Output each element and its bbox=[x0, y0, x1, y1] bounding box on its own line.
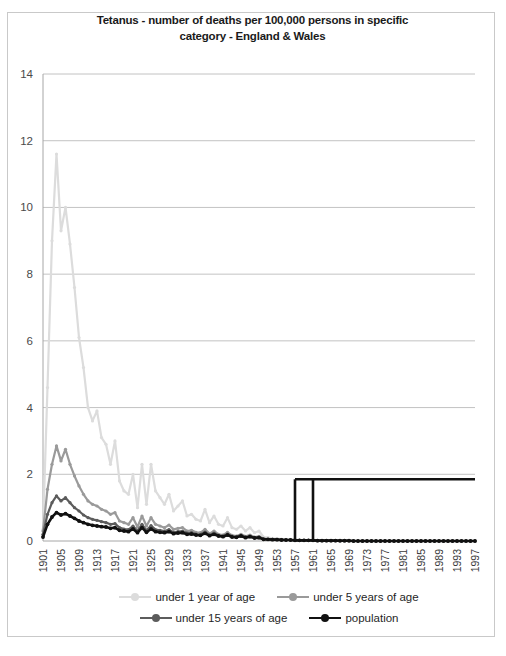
series-point bbox=[140, 523, 143, 526]
series-point bbox=[284, 538, 288, 542]
series-point bbox=[100, 436, 103, 439]
x-axis-tick-label: 1925 bbox=[145, 549, 157, 573]
series-point bbox=[419, 539, 423, 543]
series-point bbox=[77, 336, 80, 339]
x-axis-tick-label: 1981 bbox=[397, 549, 409, 573]
series-point bbox=[73, 286, 76, 289]
series-point bbox=[338, 539, 342, 543]
legend-swatch-under-1-year bbox=[119, 591, 151, 603]
series-point bbox=[59, 513, 63, 517]
series-point bbox=[127, 523, 130, 526]
series-point bbox=[82, 521, 86, 525]
legend-item-under-15-years[interactable]: under 15 years of age bbox=[140, 612, 288, 624]
series-point bbox=[203, 508, 206, 511]
series-point bbox=[91, 523, 95, 527]
y-axis-tick-label: 6 bbox=[27, 335, 33, 347]
series-point bbox=[104, 521, 107, 524]
series-point bbox=[266, 537, 270, 541]
series-point bbox=[424, 539, 428, 543]
series-point bbox=[149, 524, 152, 527]
x-axis-tick-label: 1957 bbox=[289, 549, 301, 573]
series-point bbox=[59, 499, 62, 502]
series-point bbox=[127, 530, 131, 534]
series-point bbox=[95, 519, 98, 522]
series-point bbox=[194, 533, 198, 537]
series-point bbox=[50, 515, 54, 519]
series-point bbox=[82, 493, 85, 496]
plot-area: 0246810121419011905190919131917192119251… bbox=[0, 0, 506, 656]
series-point bbox=[460, 539, 464, 543]
x-axis-tick-label: 1917 bbox=[109, 549, 121, 573]
series-point bbox=[226, 533, 230, 537]
series-point bbox=[104, 443, 107, 446]
series-point bbox=[136, 506, 139, 509]
series-point bbox=[320, 539, 324, 543]
series-point bbox=[154, 530, 158, 534]
chart-legend: under 1 year of age under 5 years of age… bbox=[104, 586, 434, 628]
series-point bbox=[149, 527, 153, 531]
series-point bbox=[131, 473, 134, 476]
series-point bbox=[59, 229, 62, 232]
series-point bbox=[397, 539, 401, 543]
series-point bbox=[77, 509, 80, 512]
series-point bbox=[392, 539, 396, 543]
series-point bbox=[55, 494, 58, 497]
x-axis-tick-label: 1997 bbox=[469, 549, 481, 573]
series-point bbox=[140, 463, 143, 466]
series-point bbox=[383, 539, 387, 543]
series-point bbox=[361, 539, 365, 543]
series-point bbox=[203, 531, 207, 535]
series-point bbox=[91, 518, 94, 521]
series-point bbox=[68, 463, 71, 466]
legend-swatch-under-5-years bbox=[277, 591, 309, 603]
legend-label-under-1-year: under 1 year of age bbox=[155, 591, 255, 603]
series-point bbox=[64, 448, 67, 451]
series-point bbox=[163, 526, 166, 529]
legend-item-population[interactable]: population bbox=[309, 612, 398, 624]
x-axis-tick-label: 1901 bbox=[37, 549, 49, 573]
series-point bbox=[64, 206, 67, 209]
series-point bbox=[86, 406, 89, 409]
series-point bbox=[374, 539, 378, 543]
series-point bbox=[469, 539, 473, 543]
series-point bbox=[329, 539, 333, 543]
series-point bbox=[212, 514, 215, 517]
legend-swatch-population bbox=[309, 612, 341, 624]
series-point bbox=[185, 514, 188, 517]
series-point bbox=[55, 152, 58, 155]
legend-item-under-5-years[interactable]: under 5 years of age bbox=[277, 591, 419, 603]
series-point bbox=[271, 538, 275, 542]
x-axis-tick-label: 1973 bbox=[361, 549, 373, 573]
series-point bbox=[158, 496, 161, 499]
series-point bbox=[217, 534, 221, 538]
series-point bbox=[64, 512, 68, 516]
y-axis-tick-label: 2 bbox=[27, 468, 33, 480]
y-axis-tick-label: 4 bbox=[27, 402, 34, 414]
series-point bbox=[109, 523, 112, 526]
series-point bbox=[91, 503, 94, 506]
series-point bbox=[388, 539, 392, 543]
series-point bbox=[68, 501, 71, 504]
x-axis-tick-label: 1969 bbox=[343, 549, 355, 573]
series-point bbox=[50, 239, 53, 242]
series-point bbox=[59, 459, 62, 462]
legend-item-under-1-year[interactable]: under 1 year of age bbox=[119, 591, 255, 603]
series-point bbox=[212, 532, 216, 536]
x-axis-tick-label: 1993 bbox=[451, 549, 463, 573]
series-point bbox=[235, 535, 239, 539]
series-point bbox=[370, 539, 374, 543]
series-point bbox=[176, 504, 179, 507]
series-point bbox=[307, 538, 311, 542]
series-point bbox=[145, 503, 148, 506]
series-point bbox=[50, 501, 53, 504]
series-point bbox=[154, 489, 157, 492]
series-point bbox=[109, 513, 112, 516]
series-point bbox=[77, 519, 81, 523]
series-point bbox=[167, 493, 170, 496]
x-axis-tick-label: 1985 bbox=[415, 549, 427, 573]
series-point bbox=[253, 531, 256, 534]
series-point bbox=[163, 503, 166, 506]
series-point bbox=[239, 524, 242, 527]
series-point bbox=[104, 525, 108, 529]
series-point bbox=[113, 526, 117, 530]
